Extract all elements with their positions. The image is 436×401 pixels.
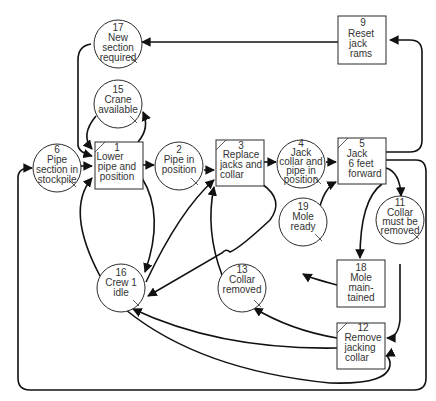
edge-12-16 <box>133 309 337 348</box>
node-6-pipe-section-in-stockpile: 6 Pipe section in stockpile <box>33 144 81 192</box>
svg-text:ready: ready <box>290 221 315 232</box>
svg-text:position: position <box>162 164 196 175</box>
edge-13-3 <box>211 187 222 275</box>
svg-text:9: 9 <box>360 17 366 28</box>
node-9-reset-jack-rams: 9 Reset jack rams <box>338 16 386 64</box>
svg-text:rams: rams <box>350 48 372 59</box>
edge-12-13 <box>254 308 337 338</box>
edge-11-12 <box>387 264 400 338</box>
edge-15-return <box>138 112 146 142</box>
node-1-lower-pipe-and-position: 1 Lower pipe and position <box>95 142 143 189</box>
node-2-pipe-in-position: 2 Pipe in position <box>155 142 203 190</box>
node-12-remove-jacking-collar: 12 Remove jacking collar <box>337 322 385 369</box>
svg-text:idle: idle <box>113 287 129 298</box>
svg-text:collar: collar <box>220 169 245 180</box>
edge-5-11 <box>386 168 401 196</box>
svg-text:forward: forward <box>348 168 381 179</box>
svg-text:position: position <box>100 171 134 182</box>
svg-text:stockpile: stockpile <box>38 174 77 185</box>
edge-18-19 <box>303 274 337 285</box>
node-19-mole-ready: 19 Mole ready <box>279 198 327 246</box>
edge-16-3 <box>146 180 214 282</box>
svg-text:tained: tained <box>347 292 374 303</box>
svg-text:removed: removed <box>381 225 420 236</box>
edge-17-1 <box>78 44 92 156</box>
svg-text:required: required <box>100 52 137 63</box>
node-13-collar-removed: 13 Collar removed <box>218 264 266 312</box>
node-18-mole-maintained: 18 Mole main- tained <box>337 260 385 307</box>
node-11-collar-must-be-removed: 11 Collar must be removed <box>376 196 424 244</box>
node-15-crane-available: 15 Crane available <box>94 80 142 128</box>
node-16-crew-1-idle: 16 Crew 1 idle <box>97 264 145 312</box>
activity-cycle-diagram: 17 New section required 9 Reset jack ram… <box>0 0 436 401</box>
svg-text:position: position <box>284 174 318 185</box>
edge-16-1 <box>80 178 100 276</box>
node-3-replace-jacks-and-collar: 3 Replace jacks and collar <box>216 140 264 186</box>
node-5-jack-6-feet-forward: 5 Jack 6 feet forward <box>338 138 386 184</box>
edge-5-9 <box>386 40 422 152</box>
edge-1-16 <box>142 178 154 272</box>
node-17-new-section-required: 17 New section required <box>94 20 142 68</box>
svg-text:collar: collar <box>345 352 370 363</box>
svg-text:available: available <box>98 104 138 115</box>
svg-text:removed: removed <box>223 284 262 295</box>
node-4-jack-collar-and-pipe-in-position: 4 Jack collar and pipe in position <box>277 138 325 188</box>
